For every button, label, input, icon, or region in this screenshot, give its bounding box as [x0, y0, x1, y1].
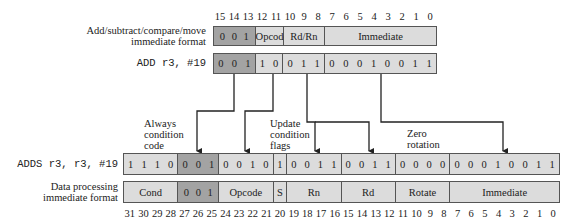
bit-number: 20 [273, 208, 287, 219]
bit-value: 0 [300, 159, 313, 170]
bit-number: 26 [191, 208, 205, 219]
annotation-update-condition-flags: Update condition flags [270, 118, 310, 151]
annot-line: condition [144, 129, 184, 140]
bit-value: 0 [219, 159, 232, 170]
bit-number: 1 [533, 208, 547, 219]
field-rd: Rd [342, 182, 396, 202]
bit-number: 25 [205, 208, 219, 219]
annot-line: condition [270, 129, 310, 140]
field-rotate: Rotate [396, 182, 450, 202]
bit-value: 0 [164, 159, 177, 170]
bit-number: 5 [478, 208, 492, 219]
bit-number: 11 [396, 208, 410, 219]
bit-number: 21 [260, 208, 274, 219]
bottom-format-label-line1: Data processing [0, 181, 118, 192]
bit-value: 0 [436, 159, 449, 170]
bit-value: 0 [342, 159, 355, 170]
bit-number: 28 [164, 208, 178, 219]
annot-line: flags [270, 140, 310, 151]
field-cond: Cond [124, 182, 178, 202]
field-label: Rd [362, 187, 374, 198]
bit-value: 1 [382, 159, 395, 170]
field-s: S [274, 182, 288, 202]
field-label: S [277, 187, 283, 198]
bit-value: 1 [314, 159, 327, 170]
bit-number: 15 [342, 208, 356, 219]
bit-field: 0000 [396, 154, 450, 174]
bit-value: 1 [274, 159, 287, 170]
bit-field: 00010011 [450, 154, 559, 174]
bit-number: 4 [492, 208, 506, 219]
bit-value: 1 [205, 159, 218, 170]
field-immediate: Immediate [450, 182, 559, 202]
bit-number: 29 [150, 208, 164, 219]
bottom-format-label: Data processing immediate format [0, 181, 118, 203]
bit-field: 0011 [342, 154, 396, 174]
bottom-format-row: Cond0 0 1OpcodeSRnRdRotateImmediate [123, 181, 560, 203]
bit-number: 30 [137, 208, 151, 219]
bit-value: 0 [477, 159, 491, 170]
field-label: Cond [139, 187, 162, 198]
bit-number: 24 [219, 208, 233, 219]
bit-value: 0 [518, 159, 532, 170]
arrow-rd [315, 122, 369, 151]
bit-number: 14 [355, 208, 369, 219]
arrow-001 [197, 74, 234, 151]
bit-number: 8 [437, 208, 451, 219]
annot-line: code [144, 140, 184, 151]
bit-value: 1 [545, 159, 559, 170]
arrow-opcode [245, 74, 273, 151]
bit-value: 1 [327, 159, 340, 170]
bit-value: 0 [233, 159, 246, 170]
annot-line: rotation [407, 139, 440, 150]
bit-number: 23 [232, 208, 246, 219]
bit-value: 0 [178, 159, 191, 170]
bit-number: 10 [410, 208, 424, 219]
bit-number: 6 [464, 208, 478, 219]
bit-value: 0 [396, 159, 409, 170]
bit-field: 001 [178, 154, 219, 174]
bit-value: 1 [368, 159, 381, 170]
bit-field: 0010 [219, 154, 273, 174]
field-label: Rn [308, 187, 320, 198]
bit-number: 16 [328, 208, 342, 219]
bit-value: 0 [505, 159, 519, 170]
bottom-instr-label: ADDS r3, r3, #19 [0, 158, 118, 170]
bit-number: 19 [287, 208, 301, 219]
bit-number: 2 [519, 208, 533, 219]
bit-value: 1 [137, 159, 150, 170]
bit-value: 0 [423, 159, 436, 170]
annot-line: Zero [407, 128, 440, 139]
field-0-0-1: 0 0 1 [178, 182, 219, 202]
bottom-instr-row: 11100010010100110011000000010011 [123, 153, 560, 175]
bit-number: 3 [505, 208, 519, 219]
field-label: 0 0 1 [184, 187, 213, 198]
bit-number: 17 [314, 208, 328, 219]
bit-value: 1 [151, 159, 164, 170]
bit-value: 0 [259, 159, 272, 170]
bit-value: 1 [491, 159, 505, 170]
bit-value: 1 [124, 159, 137, 170]
field-label: Immediate [482, 187, 527, 198]
bit-field: 1110 [124, 154, 178, 174]
bit-number: 9 [423, 208, 437, 219]
bottom-format-label-line2: immediate format [0, 192, 118, 203]
bit-number: 12 [382, 208, 396, 219]
bit-number: 31 [123, 208, 137, 219]
bit-value: 0 [464, 159, 478, 170]
bit-number: 0 [546, 208, 560, 219]
arrow-immediate [381, 74, 503, 151]
bit-value: 0 [409, 159, 422, 170]
bit-number: 22 [246, 208, 260, 219]
bit-number: 13 [369, 208, 383, 219]
field-opcode: Opcode [219, 182, 273, 202]
bit-value: 1 [532, 159, 546, 170]
bottom-bit-numbers: 3130292827262524232221201918171615141312… [123, 208, 560, 219]
bit-value: 0 [192, 159, 205, 170]
field-rn: Rn [287, 182, 341, 202]
annot-line: Update [270, 118, 310, 129]
bit-number: 18 [301, 208, 315, 219]
bit-value: 0 [355, 159, 368, 170]
bit-number: 7 [451, 208, 465, 219]
field-label: Opcode [230, 187, 263, 198]
